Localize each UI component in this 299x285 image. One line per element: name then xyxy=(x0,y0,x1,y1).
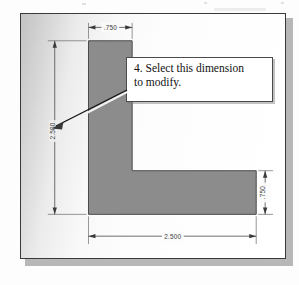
arrowhead-top-left xyxy=(88,25,95,29)
arrowhead-right-top xyxy=(263,171,267,178)
dimension-label-top-width: .750 xyxy=(104,24,118,31)
callout-box: 4. Select this dimension to modify. xyxy=(126,57,273,102)
arrowhead-bottom-left xyxy=(88,234,95,238)
scan-artifact-right xyxy=(281,2,284,4)
dimension-label-overall-height: 2.500 xyxy=(49,122,56,139)
arrowhead-left-top xyxy=(53,41,57,48)
scan-artifact-band xyxy=(214,8,266,11)
scan-artifact-mid xyxy=(204,2,207,4)
figure-frame: .750 2.500 .750 2.500 xyxy=(20,13,286,259)
screenshot-canvas: .750 2.500 .750 2.500 xyxy=(0,0,299,285)
dimension-label-overall-width: 2.500 xyxy=(164,233,181,240)
cad-drawing: .750 2.500 .750 2.500 xyxy=(21,14,285,258)
arrowhead-top-right xyxy=(125,25,132,29)
dimension-label-base-thickness: .750 xyxy=(259,186,266,200)
callout-line-2: to modify. xyxy=(134,76,181,88)
arrowhead-left-bottom xyxy=(53,207,57,214)
callout-line-1: 4. Select this dimension xyxy=(134,62,244,74)
arrowhead-bottom-right xyxy=(249,234,256,238)
scan-artifact-left xyxy=(82,3,86,5)
callout-text: 4. Select this dimension to modify. xyxy=(134,62,269,89)
arrowhead-right-bottom xyxy=(263,207,267,214)
